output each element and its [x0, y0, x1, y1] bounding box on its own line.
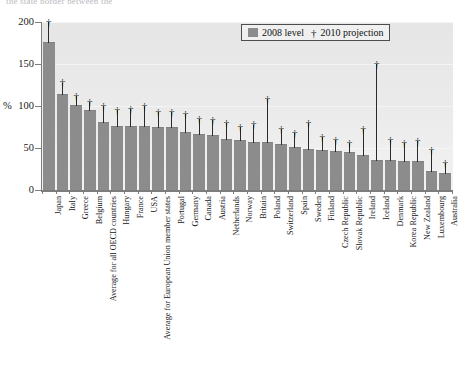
projection-marker-icon: †: [292, 130, 298, 137]
x-axis-label: Britain: [257, 196, 265, 219]
x-axis-label: France: [134, 196, 142, 218]
bar-group: †: [274, 22, 288, 190]
bar-group: †: [42, 22, 56, 190]
projection-marker-icon: †: [333, 137, 339, 144]
x-axis-label-text: New Zealand: [424, 196, 432, 240]
bar-group: †: [302, 22, 316, 190]
bar-denmark: [385, 160, 396, 190]
bar-group: †: [97, 22, 111, 190]
x-tick: [206, 190, 207, 194]
y-tick-0: [35, 190, 41, 191]
projection-marker-icon: †: [169, 109, 175, 116]
x-tick: [425, 190, 426, 194]
bar-italy: [57, 94, 68, 190]
x-axis-label: Slovak Republic: [353, 196, 361, 250]
x-axis-label: Portugal: [175, 196, 183, 224]
projection-marker-icon: †: [442, 160, 448, 167]
x-tick: [315, 190, 316, 194]
x-tick: [83, 190, 84, 194]
x-axis-label: Spain: [298, 196, 306, 215]
x-axis-label-text: France: [137, 196, 145, 218]
bar-group: †: [343, 22, 357, 190]
x-axis-label-layer: JapanItalyGreeceBelgiumAverage for all O…: [42, 196, 452, 366]
bar-poland: [262, 142, 273, 190]
x-tick: [261, 190, 262, 194]
bar-switzerland: [275, 144, 286, 190]
projection-marker-icon: †: [388, 137, 394, 144]
x-axis-label-text: Poland: [274, 196, 282, 219]
x-axis-label-text: Greece: [82, 196, 90, 219]
bar-group: †: [438, 22, 452, 190]
x-axis-label: Austria: [216, 196, 224, 220]
bar-group: †: [356, 22, 370, 190]
y-axis-label-50: 50: [24, 143, 35, 153]
x-axis-label: Italy: [66, 196, 74, 211]
x-tick: [411, 190, 412, 194]
x-axis-label: Germany: [189, 196, 197, 226]
projection-stem: [376, 64, 377, 161]
y-axis-label-150: 150: [18, 59, 34, 69]
x-axis-label: Ireland: [366, 196, 374, 219]
bar-series-layer: ††††††††††††††††††††††††††††††: [42, 22, 452, 190]
bar-group: †: [138, 22, 152, 190]
bar-austria: [207, 135, 218, 190]
bar-korea-republic: [398, 161, 409, 190]
projection-marker-icon: †: [319, 134, 325, 141]
bar-norway: [234, 140, 245, 190]
bar-group: †: [315, 22, 329, 190]
projection-marker-icon: †: [183, 111, 189, 118]
bar-group: †: [192, 22, 206, 190]
y-tick-150: [35, 64, 41, 65]
chart-legend: 2008 level † 2010 projection: [241, 24, 390, 41]
x-tick: [124, 190, 125, 194]
projection-marker-icon: †: [265, 96, 271, 103]
x-axis-label-text: Switzerland: [287, 196, 295, 235]
x-tick: [247, 190, 248, 194]
bar-group: †: [411, 22, 425, 190]
bar-new-zealand: [412, 161, 423, 190]
x-axis-label: New Zealand: [421, 196, 429, 240]
x-axis-label-text: Hungary: [123, 196, 131, 225]
x-tick: [452, 190, 453, 194]
x-axis-label-text: Average for European Union member states: [164, 196, 172, 340]
bar-group: †: [425, 22, 439, 190]
dagger-glyph-icon: †: [311, 28, 317, 38]
x-axis-label: Sweden: [312, 196, 320, 222]
x-axis-label: Norway: [243, 196, 251, 222]
x-axis-label-text: Netherlands: [233, 196, 241, 236]
bar-group: †: [397, 22, 411, 190]
x-axis-label-text: Luxembourg: [438, 196, 446, 238]
bar-hungary: [111, 126, 122, 190]
bar-group: †: [329, 22, 343, 190]
x-axis-label-text: Portugal: [178, 196, 186, 224]
bar-netherlands: [221, 139, 232, 190]
projection-marker-icon: †: [60, 79, 66, 86]
x-axis-label: Finland: [325, 196, 333, 221]
bar-group: †: [110, 22, 124, 190]
projection-marker-icon: †: [142, 103, 148, 110]
bar-usa: [139, 126, 150, 190]
x-tick: [438, 190, 439, 194]
x-tick: [56, 190, 57, 194]
projection-marker-icon: †: [210, 117, 216, 124]
x-axis-label: Korea Republic: [407, 196, 415, 248]
bar-finland: [316, 150, 327, 190]
x-axis-label-text: Finland: [328, 196, 336, 221]
x-axis-label-text: Belgium: [96, 196, 104, 224]
x-axis-label: Luxembourg: [435, 196, 443, 238]
legend-item-2010: † 2010 projection: [311, 27, 384, 38]
bar-germany: [180, 132, 191, 190]
projection-marker-icon: †: [347, 140, 353, 147]
bar-japan: [43, 42, 54, 190]
legend-item-2008: 2008 level: [248, 27, 304, 38]
x-tick: [397, 190, 398, 194]
projection-marker-icon: †: [128, 106, 134, 113]
bar-group: †: [220, 22, 234, 190]
x-axis-label: Czech Republic: [339, 196, 347, 248]
projection-stem: [267, 99, 268, 143]
x-axis-label: Average for all OECD countries: [107, 196, 115, 301]
projection-marker-icon: †: [415, 138, 421, 145]
bar-ireland: [357, 155, 368, 190]
x-tick: [274, 190, 275, 194]
bar-group: †: [151, 22, 165, 190]
